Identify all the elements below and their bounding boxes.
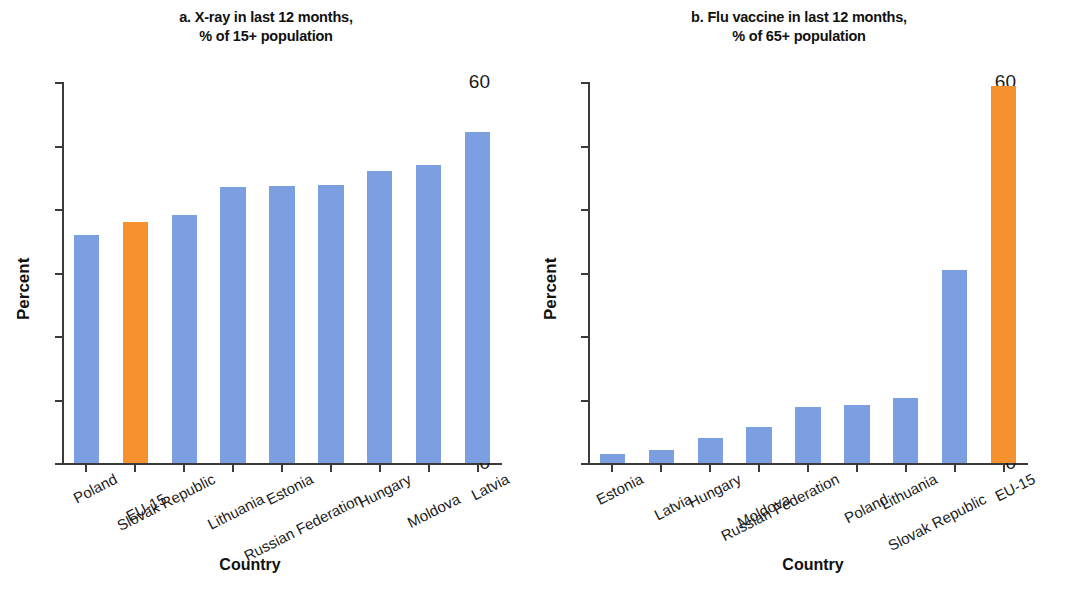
panel-a-y-axis-title: Percent [14, 258, 34, 320]
panel-a-title-line2: % of 15+ population [0, 27, 532, 46]
bar [991, 86, 1016, 463]
bar [269, 186, 294, 463]
panel-a-bars [62, 82, 502, 463]
bar [367, 171, 392, 463]
panel-b: b. Flu vaccine in last 12 months, % of 6… [533, 0, 1065, 594]
panel-a-category-label: Lithuania [205, 490, 267, 533]
panel-a-title-line1: a. X-ray in last 12 months, [179, 9, 353, 25]
bar [649, 450, 674, 463]
bar [318, 185, 343, 463]
bar [465, 132, 490, 463]
panel-b-bars [588, 82, 1028, 463]
bar [942, 270, 967, 463]
panel-a-plot-area: 0102030405060 [62, 82, 502, 463]
panel-b-category-label: EU-15 [992, 470, 1038, 504]
panel-a-category-label: Latvia [468, 470, 511, 503]
bar [746, 427, 771, 463]
bar [600, 454, 625, 463]
panel-b-y-tick [581, 463, 590, 465]
bar [416, 165, 441, 463]
figure-two-panel-bar-charts: a. X-ray in last 12 months, % of 15+ pop… [0, 0, 1065, 594]
panel-b-title-line1: b. Flu vaccine in last 12 months, [691, 9, 907, 25]
panel-a-category-label: Hungary [355, 470, 413, 511]
bar [795, 407, 820, 464]
panel-a-title: a. X-ray in last 12 months, % of 15+ pop… [0, 8, 532, 46]
panel-a-category-label: Slovak Republic [114, 470, 218, 534]
panel-b-x-axis-title: Country [533, 556, 1065, 574]
bar [123, 222, 148, 463]
panel-b-category-label: Lithuania [878, 470, 940, 513]
bar [220, 187, 245, 463]
panel-a: a. X-ray in last 12 months, % of 15+ pop… [0, 0, 532, 594]
panel-b-title-line2: % of 65+ population [533, 27, 1065, 46]
panel-b-category-labels: EstoniaLatviaHungaryMoldovaRussian Feder… [588, 468, 1048, 558]
panel-a-y-tick [55, 463, 64, 465]
bar [74, 235, 99, 463]
bar [172, 215, 197, 463]
panel-a-x-axis-title: Country [0, 556, 500, 574]
panel-b-title: b. Flu vaccine in last 12 months, % of 6… [533, 8, 1065, 46]
panel-a-category-label: Poland [71, 470, 120, 506]
bar [698, 438, 723, 463]
panel-b-category-label: Estonia [594, 470, 646, 508]
panel-a-category-label: Moldova [404, 490, 462, 531]
panel-b-y-axis-title: Percent [541, 258, 561, 320]
panel-b-plot-area: 0102030405060 [588, 82, 1028, 463]
panel-a-category-label: Estonia [263, 470, 315, 508]
bar [893, 398, 918, 463]
panel-a-category-labels: PolandEU-15Slovak RepublicLithuaniaEston… [62, 468, 522, 558]
bar [844, 405, 869, 463]
panel-b-category-label: Hungary [686, 470, 744, 511]
